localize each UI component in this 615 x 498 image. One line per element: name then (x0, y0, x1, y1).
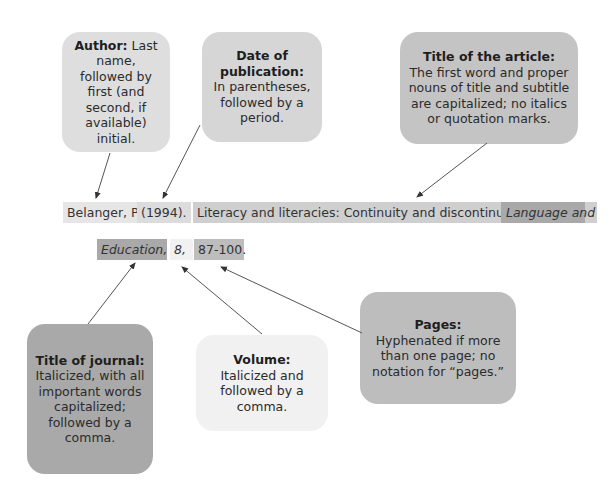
arrow-article-title (417, 143, 487, 197)
arrow-date (163, 125, 200, 198)
arrow-volume (182, 267, 262, 334)
connector-arrows (0, 0, 615, 498)
arrow-pages (221, 267, 362, 333)
arrow-author (96, 153, 110, 198)
arrow-journal (88, 263, 135, 324)
